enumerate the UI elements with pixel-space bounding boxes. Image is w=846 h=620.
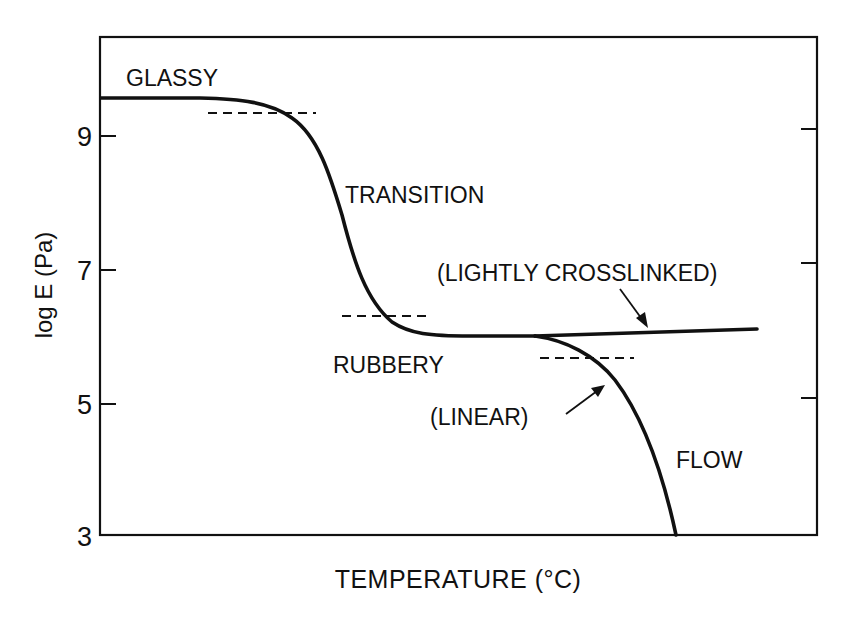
y-axis-label: log E (Pa): [30, 232, 57, 339]
arrow-crosslinked: [620, 289, 648, 328]
label-glassy: GLASSY: [126, 65, 218, 91]
label-linear: (LINEAR): [430, 404, 528, 430]
y-tick-label: 3: [77, 522, 92, 552]
label-lightly-crosslinked: (LIGHTLY CROSSLINKED): [437, 260, 717, 286]
arrowhead-icon: [591, 385, 605, 397]
curve-lightly-crosslinked: [535, 329, 757, 336]
y-tick-label: 7: [77, 256, 92, 286]
curve-linear: [535, 336, 676, 535]
curve-common: [101, 98, 535, 336]
label-flow: FLOW: [676, 447, 743, 473]
region-boundaries: [208, 113, 634, 358]
modulus-temperature-chart: 9 7 5 3 log E (Pa) TEMPERATURE (°C) GLAS…: [0, 0, 846, 620]
y-axis-ticks-right: [801, 129, 817, 398]
arrow-linear: [566, 385, 605, 414]
y-tick-label: 9: [77, 122, 92, 152]
y-axis-ticks-left: [100, 136, 116, 404]
y-tick-label: 5: [77, 390, 92, 420]
label-transition: TRANSITION: [345, 182, 484, 208]
label-rubbery: RUBBERY: [333, 352, 444, 378]
x-axis-label: TEMPERATURE (°C): [335, 565, 582, 593]
